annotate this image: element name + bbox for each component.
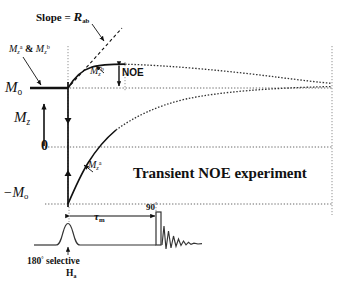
figure-canvas [0,0,348,285]
axis-tick-upper [65,118,72,124]
axis-label-zero: 0 [41,139,48,153]
fid-signal [162,226,202,249]
axis-tick-lower [65,170,72,176]
pulse-180-selective-label: 180° selective [27,257,80,267]
curve-label-mza: Mza [88,160,102,171]
pulse-90-label: 90° [146,203,157,212]
axis-label-mz: Mz [14,110,30,127]
slope-leader-arrow [92,24,104,41]
curve-mzb-dotted [125,64,332,83]
axis-label-minus-m0: −Mo [3,186,28,201]
noe-label: NOE [122,68,144,78]
pulse-90-rect [156,212,161,245]
mixing-time-label: τm [94,211,105,224]
selective-nucleus-label: Ha [66,269,76,280]
baseline-leader-arrow [23,57,41,85]
slope-label: Slope = Rab [36,10,89,25]
axis-label-m0: Mo [5,80,22,97]
pulse-180-selective-shape [56,224,80,246]
curve-mza-dotted [116,87,332,131]
transient-noe-figure: Slope = Rab Mza & Mzb Mo Mz 0 −Mo Mzb NO… [0,0,348,285]
figure-title: Transient NOE experiment [133,166,307,181]
tangent-line-slope-rab [67,28,122,89]
curve-label-mzb: Mzb [90,66,104,77]
initial-magnetization-label: Mza & Mzb [9,44,50,55]
